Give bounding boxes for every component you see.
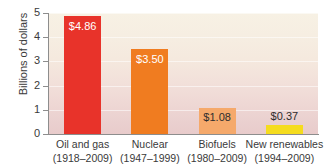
y-tick-label: 4: [26, 31, 40, 42]
bar-value-label: $0.37: [266, 110, 303, 122]
y-tick-mark: [43, 13, 49, 14]
y-tick-mark: [43, 134, 49, 135]
x-axis-category-labels: Oil and gas(1918–2009)Nuclear(1947–1999)…: [49, 137, 325, 167]
y-tick-mark: [43, 37, 49, 38]
category-label: New renewables(1994–2009): [234, 137, 331, 165]
bar-oil-and-gas[interactable]: $4.86: [64, 16, 101, 134]
y-tick-mark: [43, 86, 49, 87]
y-tick-label: 2: [26, 80, 40, 91]
y-tick-mark: [43, 110, 49, 111]
y-tick-label: 3: [26, 55, 40, 66]
bar-chart: Billions of dollars 012345 $4.86$3.50$1.…: [0, 0, 331, 167]
category-name: New renewables: [234, 137, 331, 151]
bar-value-label: $4.86: [64, 20, 101, 32]
bar-biofuels[interactable]: $1.08: [199, 108, 236, 134]
x-axis-line: [43, 134, 319, 135]
y-tick-label: 1: [26, 104, 40, 115]
bar-nuclear[interactable]: $3.50: [131, 49, 168, 134]
bar-value-label: $3.50: [131, 53, 168, 65]
category-years: (1994–2009): [234, 151, 331, 165]
plot-area: $4.86$3.50$1.08$0.37: [49, 13, 318, 134]
bar-value-label: $1.08: [199, 111, 236, 123]
bar-new-renewables[interactable]: $0.37: [266, 125, 303, 134]
gridline: [49, 13, 318, 14]
y-axis-tick-labels: 012345: [26, 8, 40, 139]
y-tick-label: 5: [26, 7, 40, 18]
y-tick-mark: [43, 61, 49, 62]
